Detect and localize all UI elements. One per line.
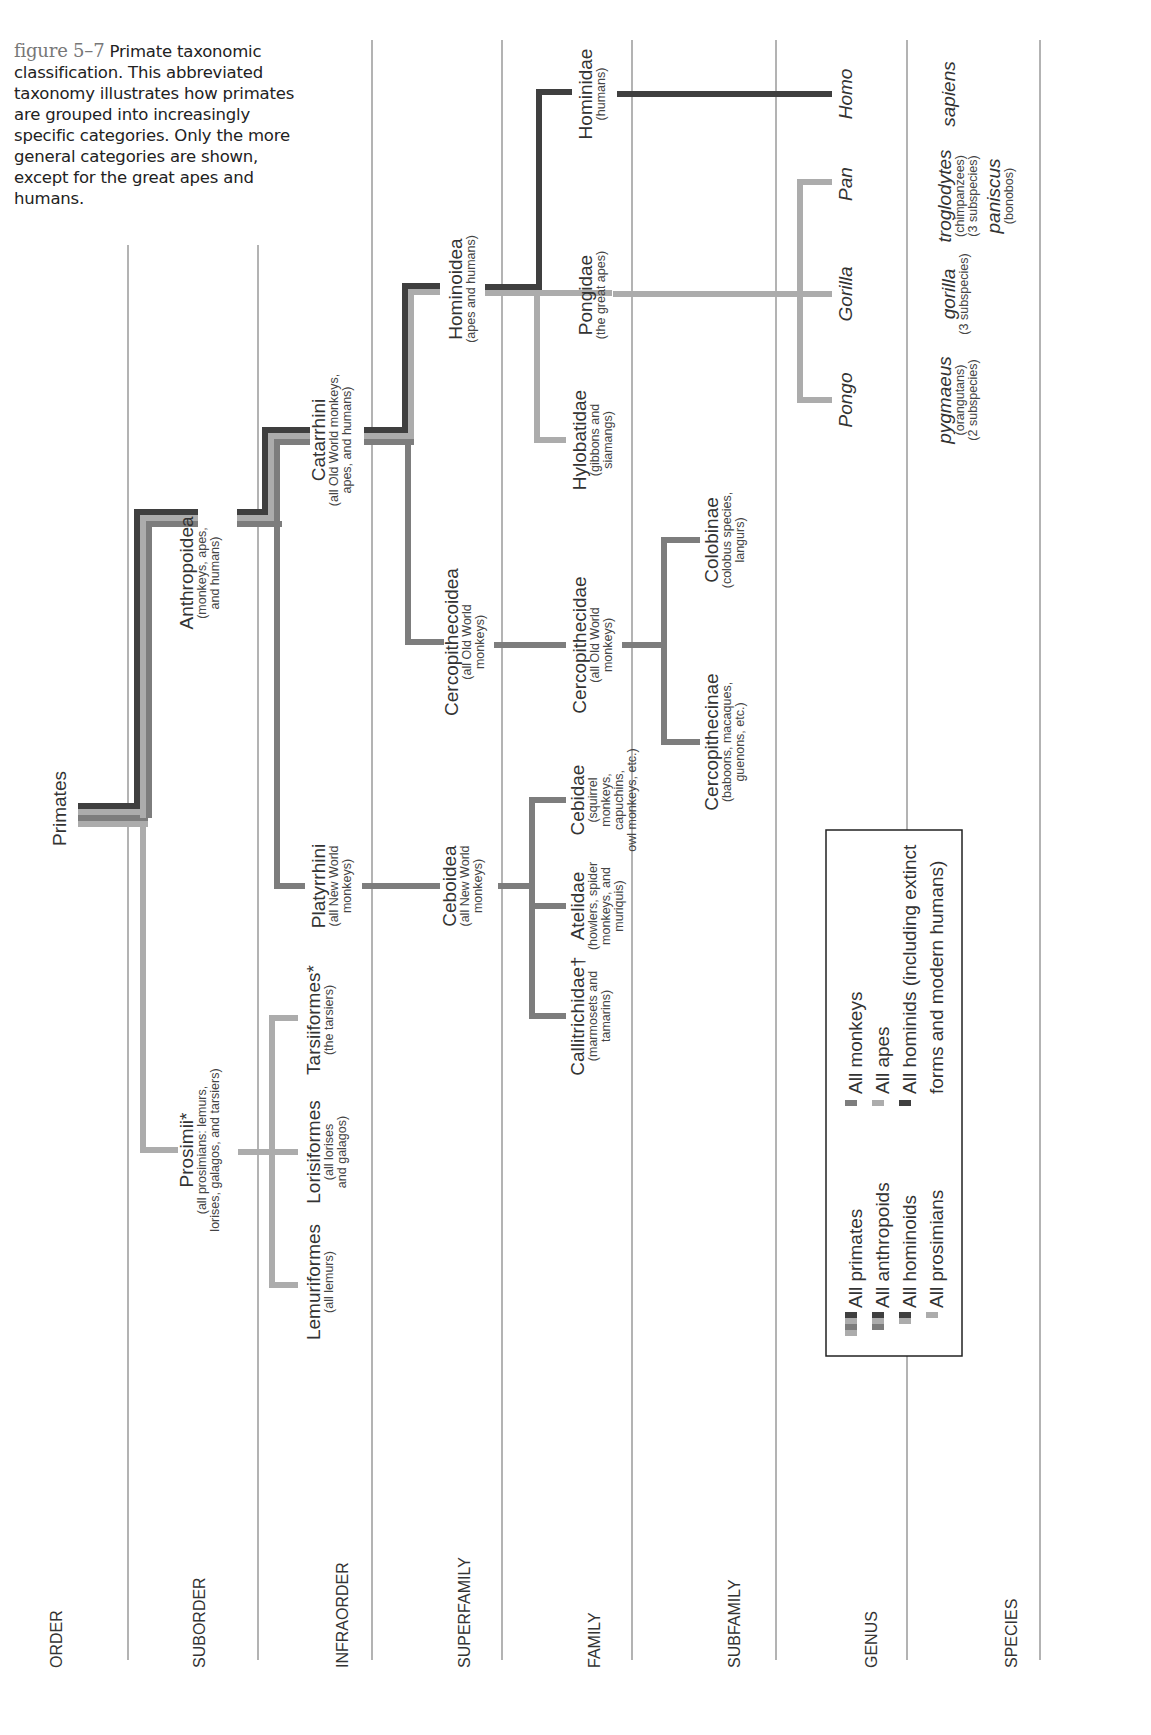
svg-text:Platyrrhini: Platyrrhini [308,844,329,928]
svg-text:and galagos): and galagos) [335,1116,349,1188]
species-troglodytes: troglodytes (chimpanzees) (3 subspecies) [934,149,980,242]
svg-text:lorises, galagos, and tarsiers: lorises, galagos, and tarsiers) [208,1068,222,1231]
label-tarsiiformes: Tarsiiformes* (the tarsiers) [303,965,336,1075]
svg-text:(all lorises: (all lorises [322,1124,336,1180]
svg-text:Catarrhini: Catarrhini [308,399,329,481]
branch-catarrhini [237,430,310,524]
legend-swatch-prosimians [926,1312,938,1318]
svg-text:paniscus: paniscus [983,158,1004,234]
svg-text:troglodytes: troglodytes [934,149,955,242]
svg-text:(humans): (humans) [594,68,608,121]
legend-swatch-monkeys [845,1100,857,1106]
label-catarrhini: Catarrhini (all Old World monkeys, apes,… [308,374,354,506]
svg-text:Anthropoidea: Anthropoidea [176,516,197,629]
svg-text:(all prosimians: lemurs,: (all prosimians: lemurs, [195,1086,209,1215]
svg-text:monkeys,: monkeys, [599,773,613,827]
svg-text:monkeys): monkeys) [601,618,615,672]
svg-text:muriquis): muriquis) [612,880,626,931]
label-homo: Homo [835,69,856,120]
legend-label-monkeys: All monkeys [845,992,866,1094]
branch-cercopithecoidea [408,442,444,642]
branch-primates-stem [78,806,148,824]
label-lorisiformes: Lorisiformes (all lorises and galagos) [303,1100,349,1203]
svg-text:tamarins): tamarins) [599,990,613,1042]
branch-great-ape-genera [613,182,832,400]
svg-text:apes, and humans): apes, and humans) [340,386,354,493]
rank-subfamily: SUBFAMILY [726,1579,743,1668]
svg-text:(howlers, spider: (howlers, spider [586,862,600,950]
svg-text:(marmosets and: (marmosets and [586,971,600,1061]
rank-family: FAMILY [586,1612,603,1668]
label-primates: Primates [49,771,70,846]
svg-text:(baboons, macaques,: (baboons, macaques, [720,682,734,802]
svg-text:and humans): and humans) [208,537,222,610]
svg-text:Cercopithecidae: Cercopithecidae [569,576,590,713]
label-atelidae: Atelidae (howlers, spider monkeys, and m… [567,862,626,950]
svg-text:Cebidae: Cebidae [567,765,588,836]
label-gorilla: Gorilla [835,267,856,322]
svg-text:Hominidae: Hominidae [575,49,596,140]
label-prosimii: Prosimii* (all prosimians: lemurs, loris… [176,1068,222,1231]
svg-text:Callitrichidae†: Callitrichidae† [567,956,588,1075]
svg-text:Prosimii*: Prosimii* [176,1112,197,1188]
rank-labels: ORDER SUBORDER INFRAORDER SUPERFAMILY FA… [48,1557,1020,1668]
rank-species: SPECIES [1003,1599,1020,1668]
label-platyrrhini: Platyrrhini (all New World monkeys) [308,844,354,928]
label-pongo: Pongo [835,373,856,428]
svg-text:siamangs): siamangs) [601,411,615,469]
svg-text:Colobinae: Colobinae [701,497,722,583]
branch-prosimii [143,824,178,1150]
species-paniscus: paniscus (bonobos) [983,158,1016,234]
label-callitrichidae: Callitrichidae† (marmosets and tamarins) [567,956,613,1075]
rank-order: ORDER [48,1610,65,1668]
label-cercopithecidae: Cercopithecidae (all Old World monkeys) [569,576,615,713]
svg-text:(2 subspecies): (2 subspecies) [966,359,980,440]
svg-text:pygmaeus: pygmaeus [934,356,955,445]
label-cebidae: Cebidae (squirrel monkeys, capuchins, ow… [567,748,639,852]
label-anthropoidea: Anthropoidea (monkeys, apes, and humans) [176,516,222,629]
label-ceboidea: Ceboidea (all New World monkeys) [439,845,485,927]
label-hominidae: Hominidae (humans) [575,49,608,140]
label-colobinae: Colobinae (colobus species, langurs) [701,492,747,589]
svg-text:Lorisiformes: Lorisiformes [303,1100,324,1203]
svg-text:Atelidae: Atelidae [567,872,588,941]
label-cercopithecoidea: Cercopithecoidea (all Old World monkeys) [441,568,487,716]
svg-text:(all Old World monkeys,: (all Old World monkeys, [327,374,341,506]
label-lemuriformes: Lemuriformes (all lemurs) [303,1224,336,1340]
svg-text:monkeys): monkeys) [471,859,485,913]
svg-text:Hominoidea: Hominoidea [445,238,466,340]
svg-text:Ceboidea: Ceboidea [439,845,460,927]
svg-text:Cercopithecinae: Cercopithecinae [701,673,722,810]
label-pongidae: Pongidae (the great apes) [575,251,608,339]
rank-superfamily: SUPERFAMILY [456,1557,473,1668]
label-hylobatidae: Hylobatidae (gibbons and siamangs) [569,390,615,490]
svg-text:(squirrel: (squirrel [586,777,600,822]
svg-text:(orangutans): (orangutans) [953,365,967,436]
taxonomy-diagram: ORDER SUBORDER INFRAORDER SUPERFAMILY FA… [0,0,1151,1735]
legend-swatch-primates [845,1312,857,1336]
svg-text:capuchins,: capuchins, [612,770,626,830]
svg-text:owl monkeys, etc.): owl monkeys, etc.) [625,748,639,852]
label-pan: Pan [835,167,856,201]
legend: All primates All anthropoids All hominoi… [826,830,962,1356]
svg-text:monkeys): monkeys) [340,859,354,913]
species-pygmaeus: pygmaeus (orangutans) (2 subspecies) [934,356,980,445]
svg-text:(the tarsiers): (the tarsiers) [322,985,336,1055]
label-cercopithecinae: Cercopithecinae (baboons, macaques, guen… [701,673,747,810]
rank-suborder: SUBORDER [191,1577,208,1668]
svg-text:Tarsiiformes*: Tarsiiformes* [303,965,324,1075]
legend-label-prosimians: All prosimians [926,1190,947,1308]
svg-text:guenons, etc.): guenons, etc.) [733,702,747,781]
svg-text:Pongidae: Pongidae [575,255,596,335]
svg-text:(all Old World: (all Old World [460,604,474,680]
svg-text:(bonobos): (bonobos) [1002,168,1016,224]
svg-text:langurs): langurs) [733,517,747,562]
legend-swatch-hominids [899,1100,911,1106]
svg-text:(3 subspecies): (3 subspecies) [957,253,971,334]
legend-label-hominoids: All hominoids [899,1195,920,1308]
svg-text:Cercopithecoidea: Cercopithecoidea [441,568,462,716]
rank-infraorder: INFRAORDER [334,1562,351,1668]
svg-text:(the great apes): (the great apes) [594,251,608,339]
svg-text:(all New World: (all New World [458,845,472,926]
rank-genus: GENUS [863,1611,880,1668]
